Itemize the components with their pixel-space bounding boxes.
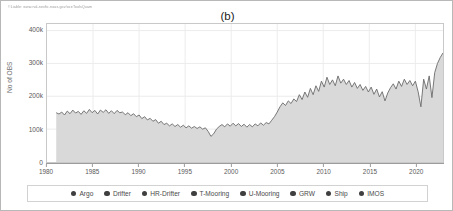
legend-marker-icon bbox=[326, 191, 332, 197]
x-tick-mark bbox=[231, 164, 232, 167]
x-tick-1985: 1985 bbox=[85, 164, 99, 175]
y-axis-tick-labels: 0100k200k300k400k bbox=[1, 23, 43, 163]
legend-item-label: T-Mooring bbox=[200, 190, 230, 197]
x-tick-2015: 2015 bbox=[363, 164, 377, 175]
x-tick-mark bbox=[369, 164, 370, 167]
legend-item-u-mooring[interactable]: U-Mooring bbox=[240, 190, 279, 197]
legend-marker-icon bbox=[71, 191, 77, 197]
x-tick-2020: 2020 bbox=[409, 164, 423, 175]
x-tick-label: 2010 bbox=[317, 168, 331, 175]
plot-area bbox=[46, 23, 444, 163]
source-credit-text: ©Liable: www.nal-nexfic.noas.gov/oceTool… bbox=[8, 5, 92, 9]
x-tick-label: 2000 bbox=[224, 168, 238, 175]
x-tick-label: 2015 bbox=[363, 168, 377, 175]
x-tick-label: 1980 bbox=[39, 168, 53, 175]
x-tick-mark bbox=[323, 164, 324, 167]
x-tick-mark bbox=[277, 164, 278, 167]
legend-marker-icon bbox=[240, 191, 246, 197]
x-tick-1990: 1990 bbox=[131, 164, 145, 175]
x-tick-mark bbox=[92, 164, 93, 167]
y-tick-label-200k: 200k bbox=[3, 92, 43, 99]
x-tick-2010: 2010 bbox=[317, 164, 331, 175]
panel-title: (b) bbox=[1, 10, 453, 22]
legend-item-t-mooring[interactable]: T-Mooring bbox=[191, 190, 229, 197]
x-tick-label: 1985 bbox=[85, 168, 99, 175]
y-tick-label-100k: 100k bbox=[3, 126, 43, 133]
x-tick-2005: 2005 bbox=[270, 164, 284, 175]
legend-marker-icon bbox=[191, 191, 197, 197]
legend-item-grw[interactable]: GRW bbox=[290, 190, 315, 197]
x-tick-mark bbox=[138, 164, 139, 167]
legend-marker-icon bbox=[142, 191, 148, 197]
x-axis-tick-labels: 198019851990199520002005201020152020 bbox=[46, 164, 444, 178]
legend-marker-icon bbox=[359, 191, 365, 197]
chart-legend: ArgoDrifterHR-DrifterT-MooringU-MooringG… bbox=[27, 185, 428, 202]
legend-marker-icon bbox=[104, 191, 110, 197]
legend-item-label: U-Mooring bbox=[249, 190, 280, 197]
legend-item-hr-drifter[interactable]: HR-Drifter bbox=[142, 190, 180, 197]
y-tick-label-0: 0 bbox=[3, 159, 43, 166]
area-chart-svg bbox=[47, 24, 443, 162]
legend-item-label: HR-Drifter bbox=[150, 190, 180, 197]
legend-item-label: IMOS bbox=[367, 190, 384, 197]
legend-item-imos[interactable]: IMOS bbox=[359, 190, 384, 197]
x-tick-mark bbox=[416, 164, 417, 167]
x-tick-label: 2020 bbox=[409, 168, 423, 175]
y-tick-label-300k: 300k bbox=[3, 59, 43, 66]
x-tick-label: 1995 bbox=[178, 168, 192, 175]
x-tick-2000: 2000 bbox=[224, 164, 238, 175]
x-tick-label: 1990 bbox=[131, 168, 145, 175]
area-series-fill bbox=[56, 53, 443, 162]
legend-item-label: Ship bbox=[334, 190, 347, 197]
legend-item-label: Argo bbox=[79, 190, 93, 197]
x-tick-mark bbox=[46, 164, 47, 167]
legend-item-label: Drifter bbox=[113, 190, 131, 197]
y-tick-label-400k: 400k bbox=[3, 26, 43, 33]
legend-item-drifter[interactable]: Drifter bbox=[104, 190, 130, 197]
legend-item-label: GRW bbox=[299, 190, 315, 197]
x-tick-mark bbox=[184, 164, 185, 167]
legend-item-ship[interactable]: Ship bbox=[326, 190, 348, 197]
x-tick-1980: 1980 bbox=[39, 164, 53, 175]
legend-marker-icon bbox=[290, 191, 296, 197]
legend-item-argo[interactable]: Argo bbox=[71, 190, 93, 197]
chart-panel: ©Liable: www.nal-nexfic.noas.gov/oceTool… bbox=[0, 0, 453, 211]
x-tick-1995: 1995 bbox=[178, 164, 192, 175]
x-tick-label: 2005 bbox=[270, 168, 284, 175]
